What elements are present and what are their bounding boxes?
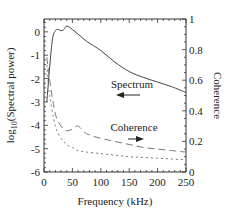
y-left-tick-label: -3: [31, 96, 41, 108]
y-right-tick-label: 0: [189, 166, 195, 178]
axes: [44, 19, 186, 172]
arrowhead-left-icon: [116, 92, 124, 98]
series-layer: [47, 26, 186, 160]
series-line-coherence-long-dash-: [47, 57, 186, 152]
x-tick-label: 0: [41, 176, 47, 188]
y-right-tick-label: 0.8: [189, 44, 203, 56]
x-tick-label: 200: [149, 176, 166, 188]
y-left-tick-label: -2: [31, 73, 40, 85]
y-right-tick-label: 0.6: [189, 74, 203, 86]
chart: 0501001502002500-1-2-3-4-5-600.20.40.60.…: [0, 0, 228, 211]
y-right-tick-label: 1: [189, 13, 195, 25]
arrowhead-right-icon: [136, 136, 144, 142]
y-right-tick-label: 0.2: [189, 135, 203, 147]
y-right-tick-label: 0.4: [189, 105, 203, 117]
y-left-tick-label: -6: [31, 166, 41, 178]
x-axis-title: Frequency (kHz): [78, 195, 153, 208]
y-left-tick-label: -5: [31, 143, 41, 155]
y-left-tick-label: 0: [35, 26, 41, 38]
x-tick-label: 100: [93, 176, 110, 188]
annotation-coherence: Coherence: [110, 121, 157, 133]
x-tick-label: 50: [67, 176, 79, 188]
x-tick-label: 150: [121, 176, 138, 188]
y-left-axis-title: log10(Spectral power): [4, 47, 19, 143]
annotation-spectrum: Spectrum: [111, 78, 154, 90]
y-left-tick-label: -1: [31, 49, 40, 61]
labels-layer: 0501001502002500-1-2-3-4-5-600.20.40.60.…: [4, 13, 224, 208]
y-right-axis-title: Coherence: [212, 72, 224, 119]
series-line-spectrum: [47, 26, 186, 102]
y-left-tick-label: -4: [31, 119, 41, 131]
